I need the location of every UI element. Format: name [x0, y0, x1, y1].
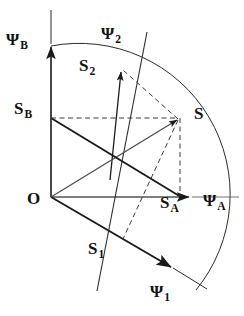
label-psi-1: Ψ1: [150, 283, 170, 304]
label-psi-b-base: Ψ: [6, 30, 19, 49]
label-psi-b-sub: B: [19, 39, 28, 52]
vector-o-to-s: [51, 120, 177, 197]
axis-psi-1-tail: [173, 268, 207, 289]
label-s-a: SA: [160, 194, 179, 215]
label-s-point: S: [194, 105, 203, 122]
label-origin: O: [27, 190, 40, 207]
label-s-b: SB: [14, 100, 32, 121]
label-psi-2-base: Ψ: [101, 24, 114, 43]
label-s-a-sub: A: [169, 202, 178, 215]
label-psi-1-sub: 1: [163, 291, 170, 304]
axis-psi-2-arrow: [110, 72, 121, 180]
label-psi-2: Ψ2: [101, 25, 121, 46]
label-psi-2-sub: 2: [114, 33, 121, 46]
label-s-1: S1: [88, 240, 104, 261]
label-psi-1-base: Ψ: [150, 282, 163, 301]
label-s-1-sub: 1: [97, 248, 104, 261]
label-s-2-sub: 2: [88, 65, 95, 78]
axis-psi-1: [51, 197, 171, 267]
label-psi-a: ΨA: [203, 192, 226, 213]
label-psi-a-base: Ψ: [203, 191, 216, 210]
label-s-b-sub: B: [23, 108, 32, 121]
label-psi-a-sub: A: [216, 200, 225, 213]
label-s-2: S2: [79, 57, 95, 78]
quarter-circle-arc: [51, 43, 230, 290]
label-psi-b: ΨB: [6, 31, 28, 52]
vector-diagram-canvas: [0, 0, 244, 316]
